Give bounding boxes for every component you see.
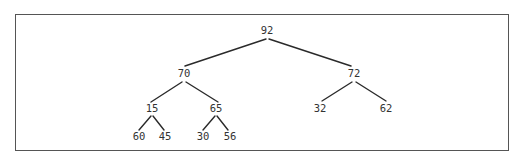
edge-72-32 (322, 82, 352, 101)
edge-92-72 (269, 39, 351, 66)
edge-15-60 (139, 116, 151, 130)
edge-15-45 (153, 116, 164, 130)
node-label: 92 (261, 24, 274, 36)
edge-92-70 (185, 39, 266, 66)
node-label: 72 (348, 67, 361, 79)
node-label: 60 (133, 130, 146, 142)
edge-70-65 (186, 82, 218, 102)
node-label: 56 (224, 130, 237, 142)
tree-nodes: 92 70 72 15 65 32 62 60 45 30 56 (133, 24, 393, 142)
edge-70-15 (151, 82, 182, 102)
node-label: 65 (210, 102, 223, 114)
binary-tree-diagram: 92 70 72 15 65 32 62 60 45 30 56 (0, 0, 525, 160)
edge-72-62 (356, 82, 386, 101)
edge-65-56 (217, 116, 228, 130)
edge-65-30 (203, 116, 215, 130)
node-label: 45 (159, 130, 172, 142)
node-label: 15 (146, 102, 159, 114)
node-label: 62 (380, 102, 393, 114)
node-label: 30 (197, 130, 210, 142)
node-label: 70 (178, 67, 191, 79)
tree-edges (139, 39, 386, 130)
node-label: 32 (314, 102, 327, 114)
